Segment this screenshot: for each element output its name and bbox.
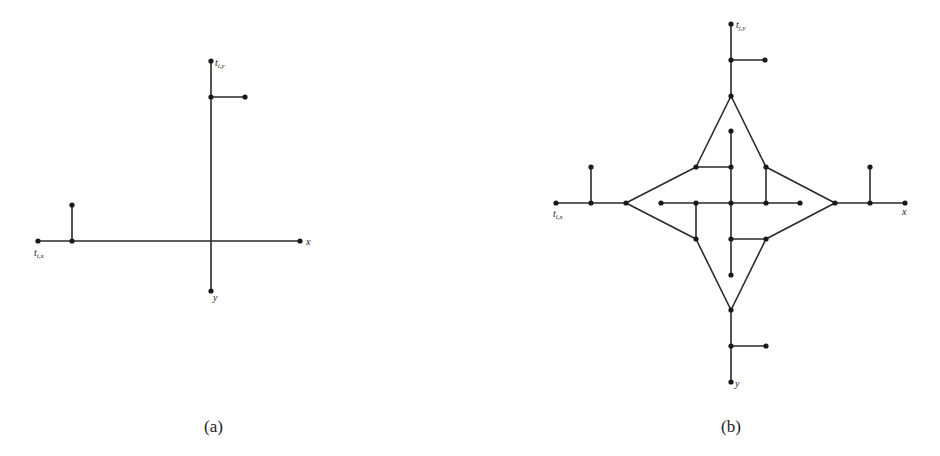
tree-node [902, 200, 907, 205]
label-t-ix-a: ti,x [34, 247, 44, 260]
tree-node [242, 94, 247, 99]
label-t-iy-a: ti,y [215, 57, 225, 70]
tree-node [728, 200, 733, 205]
tree-node [728, 343, 733, 348]
label-t-ix-b: ti,x [553, 208, 563, 221]
tree-node [35, 238, 40, 243]
tree-node [208, 94, 213, 99]
tree-node [763, 236, 768, 241]
tree-node [728, 379, 733, 384]
tree-node [728, 21, 733, 26]
tree-node [553, 200, 558, 205]
tree-node [728, 164, 733, 169]
tree-edge [626, 203, 696, 239]
tree-node [297, 238, 302, 243]
tree-node [762, 57, 767, 62]
tree-node [728, 57, 733, 62]
tree-node [867, 200, 872, 205]
label-t-jy-b: tj,y [736, 19, 746, 32]
tree-node [69, 202, 74, 207]
tree-node [69, 238, 74, 243]
tree-node [693, 200, 698, 205]
tree-node [763, 164, 768, 169]
label-y-a: y [212, 292, 218, 303]
tree-node [832, 200, 837, 205]
caption-a: (a) [204, 417, 223, 436]
caption-b: (b) [721, 417, 741, 436]
tree-node [693, 164, 698, 169]
tree-node [728, 236, 733, 241]
figure-a [35, 58, 302, 293]
tree-node [623, 200, 628, 205]
tree-node [728, 272, 733, 277]
tree-node [763, 200, 768, 205]
tree-edge [696, 96, 731, 167]
tree-node [728, 128, 733, 133]
tree-node [588, 200, 593, 205]
tree-node [728, 307, 733, 312]
tree-node [763, 343, 768, 348]
tree-edge [696, 239, 731, 310]
label-x-b: x [901, 206, 907, 217]
tree-node [588, 164, 593, 169]
tree-node [797, 200, 802, 205]
diagram-canvas: ti,y ti,x x y (a) tj,y ti,x x y (b) [0, 0, 940, 456]
tree-edge [766, 203, 835, 239]
tree-node [867, 164, 872, 169]
tree-edge [626, 167, 696, 203]
tree-node [208, 58, 213, 63]
tree-edge [731, 96, 766, 167]
label-x-a: x [305, 236, 311, 247]
figure-b [553, 21, 907, 384]
tree-node [693, 236, 698, 241]
tree-node [658, 200, 663, 205]
tree-edge [731, 239, 766, 310]
tree-node [728, 93, 733, 98]
label-y-b: y [734, 378, 740, 389]
tree-edge [766, 167, 835, 203]
